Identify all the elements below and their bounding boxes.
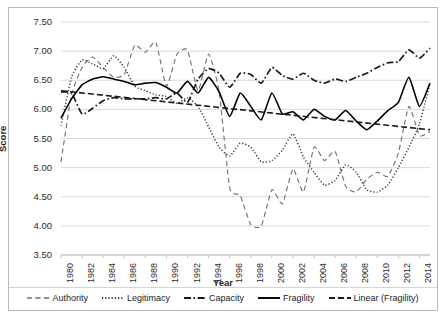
legend-item-linear-fragility[interactable]: Linear (Fragility) <box>329 293 419 303</box>
legend-label: Legitimacy <box>127 293 170 303</box>
legend-label: Authority <box>52 293 88 303</box>
legend-swatch-dotted-icon <box>102 294 124 302</box>
x-tick-label-15: 2010 <box>381 263 391 283</box>
x-tick-label-14: 2008 <box>360 263 370 283</box>
x-tick-label-3: 1986 <box>128 263 138 283</box>
legend-divider <box>9 287 437 288</box>
chart-legend: AuthorityLegitimacyCapacityFragilityLine… <box>10 293 436 303</box>
legend-item-legitimacy[interactable]: Legitimacy <box>102 293 170 303</box>
y-tick-label-4: 5.50 <box>16 133 52 144</box>
y-tick-label-5: 5.00 <box>16 162 52 173</box>
x-tick-label-4: 1988 <box>149 263 159 283</box>
y-tick-label-3: 6.00 <box>16 103 52 114</box>
y-tick-label-0: 7.50 <box>16 16 52 27</box>
y-axis-label: Score <box>0 126 8 152</box>
y-tick-label-1: 7.00 <box>16 45 52 56</box>
x-tick-label-0: 1980 <box>65 263 75 283</box>
legend-swatch-dashdot-icon <box>184 294 206 302</box>
y-tick-label-8: 3.50 <box>16 249 52 260</box>
x-tick-label-7: 1994 <box>213 263 223 283</box>
x-tick-label-10: 2000 <box>276 263 286 283</box>
legend-swatch-solid-icon <box>258 294 280 302</box>
y-tick-label-2: 6.50 <box>16 74 52 85</box>
x-tick-label-9: 1998 <box>255 263 265 283</box>
legend-swatch-dashed-icon <box>27 294 49 302</box>
x-tick-label-12: 2004 <box>318 263 328 283</box>
legend-label: Capacity <box>209 293 244 303</box>
y-tick-label-6: 4.50 <box>16 191 52 202</box>
x-tick-label-6: 1992 <box>192 263 202 283</box>
legend-swatch-dashed-trend-icon <box>329 294 351 302</box>
x-tick-label-13: 2006 <box>339 263 349 283</box>
legend-item-capacity[interactable]: Capacity <box>184 293 244 303</box>
x-tick-label-11: 2002 <box>297 263 307 283</box>
legend-item-authority[interactable]: Authority <box>27 293 88 303</box>
x-tick-label-5: 1990 <box>170 263 180 283</box>
chart-container: Score Year 7.507.006.506.005.505.004.504… <box>0 0 446 319</box>
x-tick-label-2: 1984 <box>107 263 117 283</box>
legend-label: Linear (Fragility) <box>354 293 419 303</box>
x-tick-label-1: 1982 <box>86 263 96 283</box>
y-tick-label-7: 4.00 <box>16 220 52 231</box>
x-tick-label-17: 2014 <box>423 263 433 283</box>
legend-item-fragility[interactable]: Fragility <box>258 293 315 303</box>
legend-label: Fragility <box>283 293 315 303</box>
x-tick-label-16: 2012 <box>402 263 412 283</box>
x-tick-label-8: 1996 <box>234 263 244 283</box>
